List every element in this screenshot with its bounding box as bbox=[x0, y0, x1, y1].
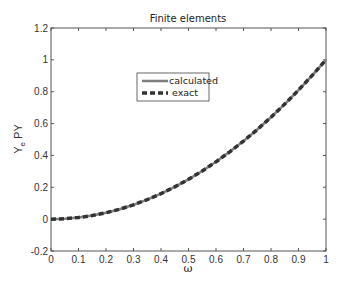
y-tick-label: 1.2 bbox=[34, 23, 48, 34]
x-tick-label: 0.7 bbox=[237, 254, 251, 265]
svg-text:Ye PY: Ye PY bbox=[12, 124, 27, 154]
legend: calculated exact bbox=[137, 73, 218, 101]
legend-label-calculated: calculated bbox=[169, 75, 218, 86]
x-tick-label: 0.8 bbox=[264, 254, 278, 265]
y-axis-label-rest: PY bbox=[12, 124, 24, 142]
x-tick-label: 0.2 bbox=[99, 254, 113, 265]
x-tick-label: 0 bbox=[48, 254, 54, 265]
x-axis-label: ω bbox=[184, 262, 193, 275]
x-tick-label: 0.4 bbox=[154, 254, 168, 265]
y-tick-label: -0.2 bbox=[31, 246, 49, 257]
plot-area bbox=[51, 28, 326, 251]
y-tick-label: 0.8 bbox=[34, 86, 48, 97]
y-tick-label: 0.2 bbox=[34, 182, 48, 193]
y-axis-label: Ye PY bbox=[12, 124, 27, 154]
y-tick-label: 0 bbox=[42, 214, 48, 225]
y-tick-label: 1 bbox=[42, 54, 48, 65]
legend-label-exact: exact bbox=[172, 87, 198, 98]
x-tick-label: 0.9 bbox=[292, 254, 306, 265]
x-tick-label: 0.3 bbox=[127, 254, 141, 265]
chart-title: Finite elements bbox=[150, 13, 227, 24]
x-tick-label: 1 bbox=[323, 254, 329, 265]
y-tick-label: 0.6 bbox=[34, 118, 48, 129]
x-tick-label: 0.1 bbox=[72, 254, 86, 265]
x-tick-label: 0.6 bbox=[209, 254, 223, 265]
y-tick-label: 0.4 bbox=[34, 150, 48, 161]
line-chart: Finite elements -0.200.20.40.60.811.2 00… bbox=[0, 0, 344, 284]
